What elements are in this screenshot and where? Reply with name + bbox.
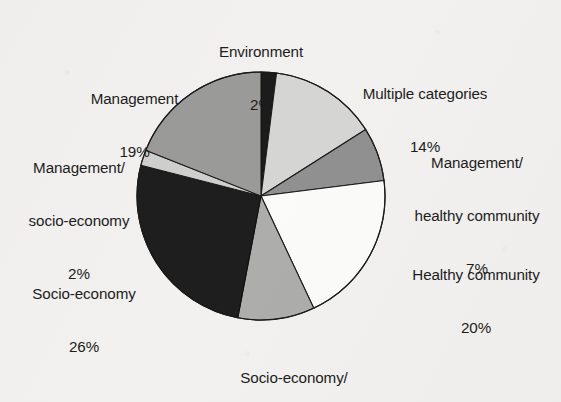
pie-label-management-healthy-community-line2: healthy community xyxy=(399,207,555,225)
pie-label-management-line1: Management xyxy=(62,90,207,108)
pie-label-healthy-community-percent: 20% xyxy=(393,319,559,337)
pie-label-management-healthy-community-line1: Management/ xyxy=(399,154,555,172)
pie-label-management: Management 19% xyxy=(62,55,207,196)
pie-label-management-socio-economy-line2: socio-economy xyxy=(4,212,154,230)
pie-label-socio-economy-healthy-community-line1: Socio-economy/ xyxy=(196,369,392,387)
pie-label-socio-economy-healthy-community: Socio-economy/ healthy community 10% xyxy=(196,334,392,402)
pie-label-management-percent: 19% xyxy=(62,143,207,161)
pie-label-multiple-categories-line1: Multiple categories xyxy=(330,85,520,103)
pie-label-healthy-community: Healthy community 20% xyxy=(393,231,559,372)
pie-label-management-socio-economy-percent: 2% xyxy=(4,265,154,283)
pie-chart-figure: Environment 2% Multiple categories 14% M… xyxy=(0,0,561,402)
pie-label-socio-economy-percent: 26% xyxy=(10,338,158,356)
pie-label-healthy-community-line1: Healthy community xyxy=(393,266,559,284)
